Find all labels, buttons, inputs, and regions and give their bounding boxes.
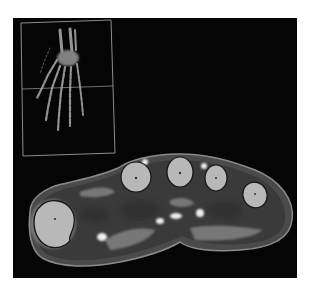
- bone-middle-metacarpal: [167, 157, 193, 187]
- bone-index-metacarpal: [121, 162, 151, 192]
- bone-ring-metacarpal: [205, 165, 227, 191]
- medical-figure: [0, 0, 310, 290]
- slice-position-line: [22, 86, 113, 89]
- inset-frame: [21, 20, 115, 156]
- ct-cross-section: [29, 154, 292, 266]
- inset-3d-rendering: [21, 20, 115, 156]
- hand-skeleton-icon: [37, 29, 83, 130]
- bone-thumb-metacarpal: [30, 199, 76, 249]
